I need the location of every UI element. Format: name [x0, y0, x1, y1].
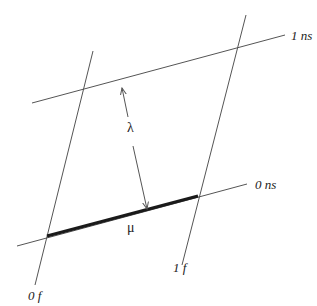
label-1ns: 1 ns	[291, 28, 312, 43]
label-1f: 1 f	[173, 260, 189, 275]
lambda-arrow-lower	[133, 146, 147, 209]
line-1ns	[32, 35, 285, 103]
label-0f: 0 f	[28, 288, 44, 303]
label-mu: μ	[127, 220, 135, 235]
mu-segment	[47, 196, 198, 236]
diagram-svg: 1 ns 0 ns 0 f 1 f λ μ	[0, 0, 317, 306]
label-0ns: 0 ns	[255, 177, 276, 192]
worldline-0f	[35, 51, 93, 285]
worldline-1f	[182, 15, 246, 265]
spacetime-diagram: 1 ns 0 ns 0 f 1 f λ μ	[0, 0, 317, 306]
lambda-arrow-upper	[122, 88, 128, 117]
label-lambda: λ	[127, 120, 134, 135]
